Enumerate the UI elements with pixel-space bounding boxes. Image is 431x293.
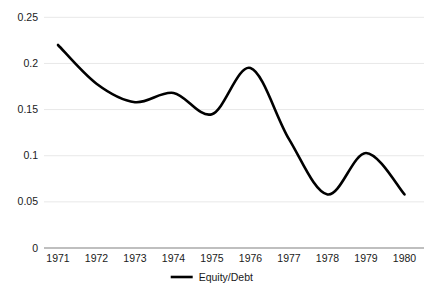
legend-label-equity-debt: Equity/Debt bbox=[199, 271, 253, 283]
x-axis-tick-label: 1980 bbox=[393, 252, 417, 264]
x-axis-tick-label: 1975 bbox=[200, 252, 224, 264]
line-chart: 00.050.10.150.20.25 19711972197319741975… bbox=[0, 0, 431, 293]
chart-background bbox=[0, 0, 431, 293]
x-axis-tick-label: 1973 bbox=[123, 252, 147, 264]
x-axis-tick-label: 1978 bbox=[316, 252, 340, 264]
x-axis-tick-label: 1974 bbox=[162, 252, 186, 264]
y-axis-tick-label: 0.05 bbox=[18, 195, 39, 207]
y-axis-tick-label: 0.15 bbox=[18, 103, 39, 115]
x-axis-tick-label: 1977 bbox=[277, 252, 301, 264]
y-axis-tick-label: 0.1 bbox=[23, 149, 38, 161]
x-axis-tick-label: 1972 bbox=[85, 252, 109, 264]
y-axis-tick-label: 0 bbox=[32, 242, 38, 254]
x-axis-tick-label: 1976 bbox=[239, 252, 263, 264]
x-axis-tick-label: 1971 bbox=[46, 252, 70, 264]
y-axis-tick-label: 0.2 bbox=[23, 57, 38, 69]
chart-container: 00.050.10.150.20.25 19711972197319741975… bbox=[0, 0, 431, 293]
y-axis-tick-label: 0.25 bbox=[18, 11, 39, 23]
x-axis-tick-label: 1979 bbox=[354, 252, 378, 264]
